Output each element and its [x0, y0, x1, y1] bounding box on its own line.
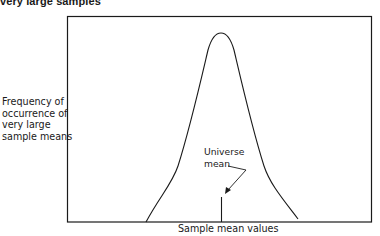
distribution-plot — [0, 0, 380, 236]
bell-curve — [146, 33, 298, 222]
universe-mean-annotation: Universe mean — [204, 146, 244, 170]
annotation-line: mean — [204, 158, 244, 170]
annotation-line: Universe — [204, 146, 244, 158]
plot-frame — [68, 17, 372, 223]
x-axis-label: Sample mean values — [178, 223, 278, 234]
